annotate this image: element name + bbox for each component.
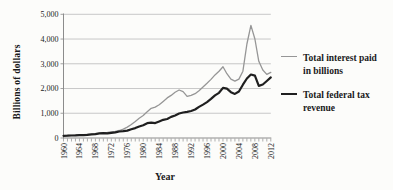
- revenue-series-line: [64, 75, 271, 136]
- y-tick-labels: 01,0002,0003,0004,0005,000: [41, 10, 59, 143]
- legend-label-interest: Total interest paid in billions: [303, 52, 387, 78]
- series-lines: [64, 25, 271, 135]
- chart-figure: 01,0002,0003,0004,0005,00019601964196819…: [0, 0, 393, 190]
- y-tick-label: 5,000: [41, 10, 59, 19]
- y-tick-label: 3,000: [41, 60, 59, 69]
- x-tick-label: 2004: [235, 143, 244, 159]
- legend-label-revenue: Total federal tax revenue: [303, 89, 387, 115]
- x-tick-label: 1988: [171, 143, 180, 159]
- y-tick-label: 2,000: [41, 84, 59, 93]
- y-tick-label: 0: [55, 134, 59, 143]
- y-axis-title: Billions of dollars: [12, 44, 22, 119]
- x-tick-labels: 1960196419681972197619801984198819921996…: [60, 143, 276, 159]
- y-tick-label: 4,000: [41, 35, 59, 44]
- x-tick-label: 1976: [123, 143, 132, 159]
- x-tick-label: 1980: [139, 143, 148, 159]
- revenue-line-swatch: [281, 93, 297, 95]
- x-tick-label: 1996: [203, 143, 212, 159]
- x-tick-label: 1968: [91, 143, 100, 159]
- x-axis-title: Year: [155, 171, 175, 182]
- x-tick-label: 2008: [251, 143, 260, 159]
- legend-entry-interest: Total interest paid in billions: [281, 52, 387, 78]
- x-tick-label: 2000: [219, 143, 228, 159]
- y-tick-label: 1,000: [41, 109, 59, 118]
- interest-line-swatch: [281, 56, 297, 57]
- x-tick-label: 1960: [60, 143, 69, 159]
- x-tick-label: 1984: [155, 143, 164, 159]
- x-tick-label: 1964: [75, 143, 84, 159]
- x-tick-label: 1992: [187, 143, 196, 159]
- x-ticks: [64, 139, 271, 142]
- x-tick-label: 1972: [107, 143, 116, 159]
- x-tick-label: 2012: [267, 143, 276, 159]
- legend: Total interest paid in billions Total fe…: [281, 52, 387, 126]
- legend-entry-revenue: Total federal tax revenue: [281, 89, 387, 115]
